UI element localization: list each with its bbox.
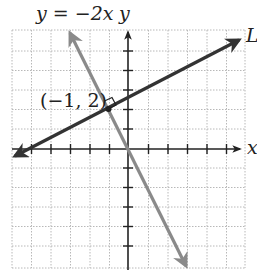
graph-svg: y = −2x y L x (−1, 2) (0, 0, 257, 272)
label-point: (−1, 2) (40, 89, 107, 111)
label-line-L: L (245, 24, 257, 46)
label-y-axis: y (118, 2, 130, 24)
axes (12, 32, 240, 270)
label-x-axis: x (247, 136, 257, 158)
coordinate-plane-figure: y = −2x y L x (−1, 2) (0, 0, 257, 272)
label-line-neg2x: y = −2x (35, 2, 114, 24)
